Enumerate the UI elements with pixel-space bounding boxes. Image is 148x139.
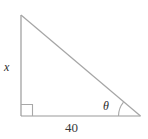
triangle-svg: [0, 0, 148, 139]
side-label-x: x: [4, 61, 9, 73]
theta-angle-arc-icon: [119, 102, 124, 116]
right-angle-marker-icon: [21, 105, 33, 117]
angle-label-theta: θ: [103, 100, 109, 112]
geometry-figure: x θ 40: [0, 0, 148, 139]
side-label-base: 40: [65, 121, 78, 134]
triangle-hypotenuse: [21, 15, 141, 116]
